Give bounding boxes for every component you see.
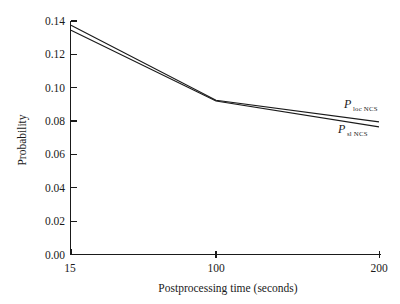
series-label-p-sl-ncs-main: P bbox=[337, 122, 346, 136]
chart-figure: 0.00 0.02 0.04 0.06 0.08 0.10 0.12 0.14 … bbox=[0, 0, 400, 304]
series-label-p-loc-ncs: P loc NCS bbox=[343, 97, 378, 112]
y-tick-label-0: 0.00 bbox=[45, 249, 65, 261]
y-axis-title: Probability bbox=[16, 114, 29, 165]
y-tick-label-5: 0.10 bbox=[45, 82, 65, 94]
series-label-p-sl-ncs-sub: sl NCS bbox=[347, 130, 368, 137]
x-tick-label-1: 100 bbox=[207, 262, 225, 274]
series-label-p-loc-ncs-main: P bbox=[343, 97, 352, 111]
x-tick-label-2: 200 bbox=[370, 262, 388, 274]
y-tick-label-2: 0.04 bbox=[45, 182, 65, 194]
series-line-p-loc-ncs bbox=[71, 25, 379, 122]
y-tick-label-6: 0.12 bbox=[45, 48, 65, 60]
x-axis-title: Postprocessing time (seconds) bbox=[158, 282, 297, 295]
y-tick-label-1: 0.02 bbox=[45, 215, 65, 227]
series-line-p-sl-ncs bbox=[71, 30, 379, 127]
x-tick-label-0: 15 bbox=[64, 262, 76, 274]
line-chart: 0.00 0.02 0.04 0.06 0.08 0.10 0.12 0.14 … bbox=[0, 0, 400, 304]
series-label-p-loc-ncs-sub: loc NCS bbox=[353, 105, 378, 112]
y-tick-label-7: 0.14 bbox=[45, 15, 65, 27]
y-tick-label-3: 0.06 bbox=[45, 148, 65, 160]
y-tick-label-4: 0.08 bbox=[45, 115, 65, 127]
